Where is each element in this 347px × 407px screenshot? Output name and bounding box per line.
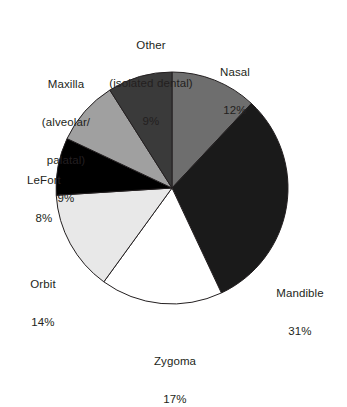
pie-label-lefort-line1: LeFort (8, 174, 80, 187)
pie-label-zygoma: Zygoma 17% (130, 330, 220, 407)
pie-label-nasal-value: 12% (200, 104, 270, 117)
pie-label-mandible: Mandible 31% (260, 262, 340, 363)
pie-label-mandible-line1: Mandible (260, 287, 340, 300)
pie-label-zygoma-value: 17% (130, 393, 220, 406)
pie-label-other-value: 9% (96, 115, 206, 128)
pie-label-zygoma-line1: Zygoma (130, 355, 220, 368)
pie-label-lefort: LeFort 8% (8, 149, 80, 250)
pie-label-orbit: Orbit 14% (10, 253, 76, 354)
pie-label-nasal-line1: Nasal (200, 66, 270, 79)
pie-label-other-line1: Other (96, 39, 206, 52)
pie-label-maxilla-line2: (alveolar/ (22, 116, 110, 129)
pie-label-other-line2: (isolated dental) (96, 77, 206, 90)
pie-label-other: Other (isolated dental) 9% (96, 14, 206, 153)
pie-label-mandible-value: 31% (260, 325, 340, 338)
pie-label-lefort-value: 8% (8, 212, 80, 225)
pie-label-orbit-value: 14% (10, 316, 76, 329)
pie-label-maxilla-line1: Maxilla (22, 78, 110, 91)
pie-label-orbit-line1: Orbit (10, 278, 76, 291)
pie-label-nasal: Nasal 12% (200, 41, 270, 142)
